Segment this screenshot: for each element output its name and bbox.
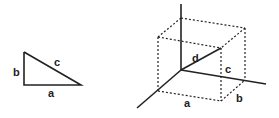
box-label-c: c <box>225 63 231 75</box>
box-label-b: b <box>236 92 243 104</box>
right-triangle: b c a <box>13 52 81 99</box>
y-axis <box>181 70 266 84</box>
triangle-label-b: b <box>13 66 20 78</box>
x-axis <box>137 70 181 108</box>
diagonal-d <box>181 48 221 70</box>
box-label-a: a <box>184 97 191 109</box>
triangle-label-c: c <box>54 56 60 68</box>
box-3d: d c a b <box>137 4 266 109</box>
pythagorean-diagram: b c a d c a b <box>0 0 279 118</box>
triangle-label-a: a <box>48 87 55 99</box>
triangle-outline <box>24 52 81 85</box>
box-label-d: d <box>192 52 199 64</box>
